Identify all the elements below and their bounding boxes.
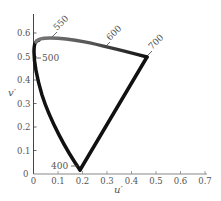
- annotation-500: 500: [42, 53, 59, 63]
- x-tick-label: 0.2: [76, 176, 90, 186]
- purple-line: [80, 57, 147, 170]
- x-tick-label: 0.4: [125, 176, 139, 186]
- y-axis-label: v′: [8, 87, 17, 98]
- y-tick-label: 0.3: [17, 99, 31, 109]
- y-tick-label: 0: [23, 169, 28, 179]
- annotation-550-arrow: [52, 32, 57, 37]
- y-tick-label: 0.5: [17, 52, 31, 62]
- x-tick-label: 0: [31, 176, 36, 186]
- y-tick-label: 0.6: [17, 28, 31, 38]
- x-tick-label: 0.5: [149, 176, 163, 186]
- y-tick-label: 0.4: [17, 75, 31, 85]
- annotation-600: 600: [104, 23, 123, 42]
- x-tick-label: 0.7: [198, 176, 212, 186]
- y-tick-label: 0.1: [17, 146, 31, 156]
- x-tick-label: 0.6: [174, 176, 188, 186]
- x-tick-label: 0.1: [51, 176, 65, 186]
- annotation-700-arrow: [148, 51, 152, 55]
- chromaticity-chart: 00.10.20.30.40.50.60.7 00.10.20.30.40.50…: [0, 0, 221, 201]
- x-axis-label: u′: [114, 184, 123, 195]
- y-tick-label: 0.2: [17, 122, 31, 132]
- annotation-700: 700: [146, 32, 165, 51]
- annotation-550: 550: [51, 13, 70, 32]
- x-tick-label: 0.3: [100, 176, 114, 186]
- annotation-400: 400: [51, 161, 68, 171]
